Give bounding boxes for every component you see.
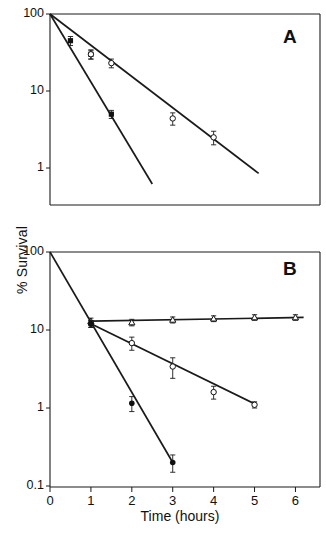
- series-plateau-open-triangle: [88, 314, 304, 326]
- series-intermediate-decay-open-circle: [88, 321, 257, 408]
- x-tick-label: 0: [41, 493, 59, 508]
- y-tick-label-b: 10: [18, 322, 44, 336]
- y-tick-label-a: 100: [18, 6, 44, 20]
- data-point-open-circle: [211, 135, 216, 140]
- series-fast-decay-filled-square: [50, 14, 152, 184]
- survival-curve-figure: % Survival Time (hours) A B 100101100101…: [0, 0, 326, 534]
- x-tick-label: 4: [205, 493, 223, 508]
- x-tick-label: 2: [123, 493, 141, 508]
- series-layer: [50, 14, 304, 472]
- y-tick-label-b: 100: [18, 244, 44, 258]
- y-tick-label-b: 0.1: [18, 478, 44, 492]
- x-tick-label: 5: [246, 493, 264, 508]
- data-point-open-circle: [211, 389, 216, 394]
- axes-layer: [46, 14, 320, 492]
- data-point-open-circle: [129, 340, 134, 345]
- y-tick-label-a: 10: [18, 83, 44, 97]
- data-point-open-circle: [109, 60, 114, 65]
- data-point-open-circle: [170, 116, 175, 121]
- series-slow-decay-open-circle: [50, 14, 259, 173]
- data-point-filled-circle: [170, 460, 176, 466]
- data-point-open-circle: [170, 364, 175, 369]
- fit-line: [91, 317, 304, 321]
- series-fast-decay-filled-circle: [50, 252, 176, 472]
- y-tick-label-a: 1: [18, 160, 44, 174]
- x-tick-label: 6: [286, 493, 304, 508]
- plot-canvas: [0, 0, 326, 534]
- fit-line: [50, 14, 259, 173]
- data-point-open-circle: [88, 52, 93, 57]
- fit-line: [50, 252, 173, 463]
- y-tick-label-b: 1: [18, 400, 44, 414]
- x-tick-label: 3: [164, 493, 182, 508]
- data-point-filled-square: [68, 38, 73, 43]
- data-point-open-circle: [252, 402, 257, 407]
- x-tick-label: 1: [82, 493, 100, 508]
- data-point-filled-square: [109, 112, 114, 117]
- data-point-filled-circle: [88, 321, 94, 327]
- fit-line: [50, 14, 152, 184]
- data-point-filled-circle: [129, 400, 135, 406]
